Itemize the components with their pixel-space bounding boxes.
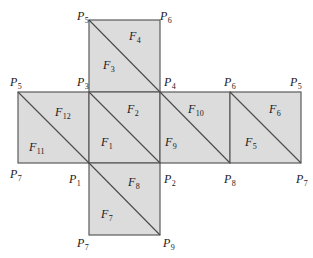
cube-net-diagram [0, 0, 313, 258]
vertex-label-p5-right: P5 [290, 76, 302, 91]
face-subscript: 7 [109, 214, 113, 223]
face-label-f3: F3 [103, 59, 115, 74]
face-subscript: 12 [63, 112, 71, 121]
face-subscript: 5 [253, 142, 257, 151]
vertex-label-p9: P9 [163, 237, 175, 252]
face-subscript: 10 [196, 109, 204, 118]
vertex-subscript: 5 [85, 16, 89, 25]
face-letter: F [103, 58, 110, 72]
vertex-letter: P [296, 172, 303, 186]
face-letter: F [269, 102, 276, 116]
face-letter: F [129, 29, 136, 43]
vertex-letter: P [164, 75, 171, 89]
vertex-label-p6-right: P6 [224, 76, 236, 91]
vertex-subscript: 7 [18, 174, 22, 183]
face-label-f12: F12 [55, 106, 71, 121]
vertex-label-p1: P1 [69, 173, 81, 188]
face-letter: F [101, 135, 108, 149]
face-label-f8: F8 [128, 176, 140, 191]
vertex-letter: P [164, 172, 171, 186]
vertex-label-p8: P8 [224, 173, 236, 188]
face-letter: F [101, 207, 108, 221]
vertex-letter: P [160, 9, 167, 23]
vertex-subscript: 5 [18, 82, 22, 91]
vertex-letter: P [290, 75, 297, 89]
vertex-letter: P [224, 75, 231, 89]
vertex-subscript: 3 [85, 82, 89, 91]
vertex-letter: P [10, 167, 17, 181]
vertex-subscript: 6 [168, 16, 172, 25]
vertex-label-p4: P4 [164, 76, 176, 91]
face-subscript: 11 [37, 147, 45, 156]
vertex-label-p7-right: P7 [296, 173, 308, 188]
vertex-letter: P [10, 75, 17, 89]
face-subscript: 2 [135, 109, 139, 118]
face-letter: F [128, 175, 135, 189]
face-letter: F [188, 102, 195, 116]
vertex-letter: P [77, 236, 84, 250]
face-label-f5: F5 [245, 136, 257, 151]
face-label-f9: F9 [165, 136, 177, 151]
face-subscript: 8 [136, 182, 140, 191]
face-letter: F [245, 135, 252, 149]
vertex-letter: P [77, 9, 84, 23]
face-label-f2: F2 [127, 103, 139, 118]
face-letter: F [165, 135, 172, 149]
vertex-letter: P [163, 236, 170, 250]
vertex-label-p5-top: P5 [77, 10, 89, 25]
vertex-subscript: 1 [77, 179, 81, 188]
vertex-label-p5-left: P5 [10, 76, 22, 91]
vertex-label-p3: P3 [77, 76, 89, 91]
face-subscript: 3 [111, 65, 115, 74]
face-label-f11: F11 [29, 141, 45, 156]
face-subscript: 4 [137, 36, 141, 45]
vertex-subscript: 9 [171, 243, 175, 252]
vertex-subscript: 7 [304, 179, 308, 188]
face-label-f1: F1 [101, 136, 113, 151]
face-label-f4: F4 [129, 30, 141, 45]
vertex-letter: P [224, 172, 231, 186]
vertex-subscript: 5 [298, 82, 302, 91]
vertex-letter: P [69, 172, 76, 186]
face-letter: F [29, 140, 36, 154]
vertex-label-p6-top: P6 [160, 10, 172, 25]
vertex-label-p7-left: P7 [10, 168, 22, 183]
face-letter: F [127, 102, 134, 116]
vertex-subscript: 4 [172, 82, 176, 91]
face-subscript: 9 [173, 142, 177, 151]
face-label-f6: F6 [269, 103, 281, 118]
vertex-subscript: 8 [232, 179, 236, 188]
face-label-f7: F7 [101, 208, 113, 223]
vertex-letter: P [77, 75, 84, 89]
face-letter: F [55, 105, 62, 119]
face-label-f10: F10 [188, 103, 204, 118]
face-subscript: 1 [109, 142, 113, 151]
vertex-subscript: 7 [85, 243, 89, 252]
vertex-subscript: 6 [232, 82, 236, 91]
face-subscript: 6 [277, 109, 281, 118]
vertex-label-p2: P2 [164, 173, 176, 188]
vertex-subscript: 2 [172, 179, 176, 188]
vertex-label-p7-bottom: P7 [77, 237, 89, 252]
